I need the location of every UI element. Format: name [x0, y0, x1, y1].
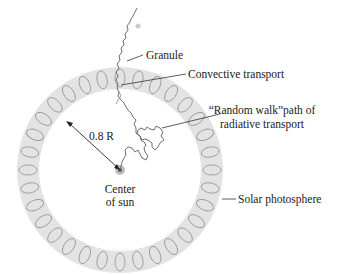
- solar-photosphere-label: Solar photosphere: [238, 193, 321, 206]
- center-label-line2: of sun: [106, 196, 135, 208]
- granule-leader: [127, 55, 143, 61]
- random-walk-label-line1: “Random walk”path of: [209, 104, 316, 117]
- convective-transport-label: Convective transport: [188, 68, 285, 81]
- random-walk-label-line2: radiative transport: [220, 118, 305, 131]
- granule-label: Granule: [146, 49, 183, 61]
- radius-label: 0.8 R: [89, 130, 114, 142]
- solar-interior-diagram: Granule Convective transport “Random wal…: [0, 0, 350, 274]
- center-label-line1: Center: [105, 183, 136, 195]
